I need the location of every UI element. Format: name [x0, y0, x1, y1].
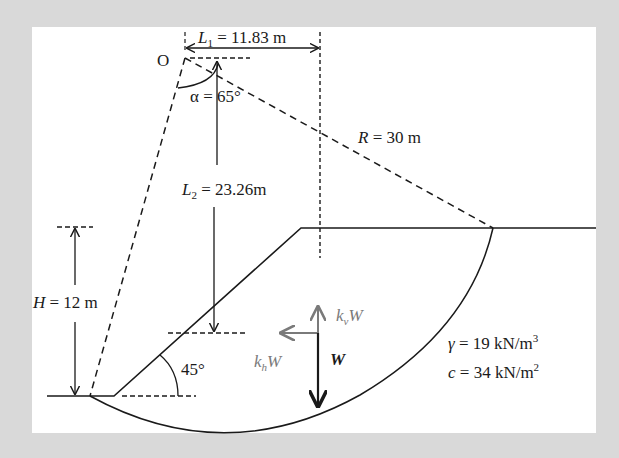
slope-angle-arc — [160, 355, 178, 396]
kvW-label: kvW — [336, 307, 363, 324]
L1-value: = 11.83 m — [213, 28, 286, 47]
gamma-symbol: γ — [448, 334, 455, 353]
kvW-W: W — [348, 306, 362, 325]
c-symbol: c — [448, 363, 456, 382]
cohesion-label: c = 34 kN/m2 — [448, 364, 539, 381]
L1-label: L1 = 11.83 m — [198, 29, 286, 46]
khW-W: W — [267, 352, 281, 371]
kvW-k: k — [336, 306, 344, 325]
khW-label: khW — [254, 353, 281, 370]
radius-label: R = 30 m — [358, 129, 421, 146]
c-value: = 34 kN/m — [456, 363, 534, 382]
alpha-label: α = 65° — [190, 88, 241, 105]
height-label: H = 12 m — [33, 294, 98, 311]
H-value: = 12 m — [45, 293, 98, 312]
unit-weight-label: γ = 19 kN/m3 — [448, 335, 538, 352]
R-value: = 30 m — [368, 128, 421, 147]
figure-stage: L1 = 11.83 m O α = 65° R = 30 m L2 = 23.… — [0, 0, 619, 458]
slip-surface-arc — [90, 228, 493, 433]
H-symbol: H — [33, 293, 45, 312]
gamma-superscript: 3 — [533, 332, 539, 344]
weight-label: W — [330, 351, 345, 368]
origin-label: O — [157, 52, 169, 69]
slope-diagram — [0, 0, 619, 458]
radius-lines — [90, 58, 493, 396]
R-symbol: R — [358, 128, 368, 147]
L2-label: L2 = 23.26m — [182, 181, 267, 198]
L2-value: = 23.26m — [197, 180, 267, 199]
alpha-angle-arc — [178, 64, 218, 88]
slope-angle-label: 45° — [181, 361, 205, 378]
gamma-value: = 19 kN/m — [455, 334, 533, 353]
c-superscript: 2 — [534, 361, 540, 373]
khW-k: k — [254, 352, 262, 371]
